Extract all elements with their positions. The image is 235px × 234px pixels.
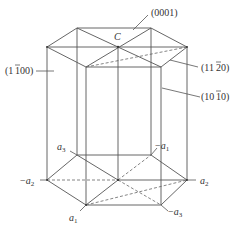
label-0001: (0001): [151, 7, 178, 19]
label-11-20: (11: [201, 62, 214, 74]
axis-label-neg-a3: −a3: [168, 206, 183, 219]
svg-text:00): 00): [20, 65, 33, 77]
svg-text:0): 0): [221, 62, 229, 74]
axis-label-a3: a3: [57, 141, 66, 154]
axis-label-neg-a1: −a1: [155, 140, 170, 153]
label-1-100: (1: [5, 65, 13, 77]
hexagonal-prism-diagram: (0001) C (1 1 00) (11 2 0) (10 1 0) a3 −…: [0, 0, 235, 234]
labels: (0001) C (1 1 00) (11 2 0) (10 1 0) a3 −…: [5, 7, 229, 225]
label-c-axis: C: [114, 31, 121, 42]
prism-vertical-edges: [47, 28, 187, 205]
axis-label-a1: a1: [69, 212, 78, 225]
axis-label-neg-a2: −a2: [20, 175, 35, 188]
svg-text:0): 0): [221, 91, 229, 103]
label-10-10: (10: [201, 91, 214, 103]
axis-label-a2: a2: [200, 175, 209, 188]
